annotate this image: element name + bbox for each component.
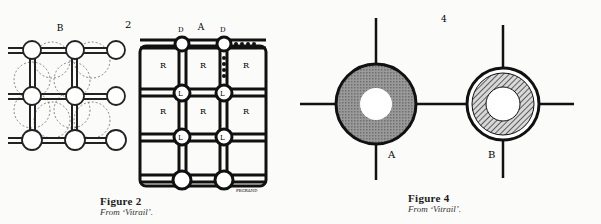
figure2-caption-title: Figure 2 — [100, 195, 153, 207]
cell-label: R — [160, 61, 167, 70]
node-label: L — [220, 134, 225, 142]
figure2-panel-b — [8, 41, 126, 150]
cell-label: R — [243, 61, 250, 70]
node-label: L — [178, 90, 183, 98]
figure2-caption: Figure 2 From ‘Vitrail’. — [100, 195, 153, 217]
lead-label-d1: D — [178, 26, 184, 34]
figure4-number: 4 — [441, 14, 447, 24]
figures-canvas: B 2 A D D R R R R R R L L L L PEGRAND 4 — [0, 0, 601, 224]
cell-label: R — [200, 107, 207, 116]
node-a-label: A — [387, 149, 396, 160]
figure4-caption: Figure 4 From ‘Vitrail’. — [408, 192, 461, 214]
figure2-caption-source: From ‘Vitrail’. — [100, 207, 153, 217]
cell-label: R — [243, 107, 250, 116]
figure4-diagram — [300, 18, 574, 180]
node-label: L — [178, 134, 183, 142]
node-label: L — [220, 90, 225, 98]
figure2-number: 2 — [125, 19, 131, 30]
panel-b-label: B — [57, 23, 64, 33]
node-b-label: B — [488, 149, 495, 160]
lead-label-d2: D — [220, 26, 226, 34]
cell-label: R — [200, 61, 207, 70]
figure4-caption-title: Figure 4 — [408, 192, 461, 204]
cell-label: R — [160, 107, 167, 116]
engraver-signature: PEGRAND — [236, 188, 257, 193]
figure4-caption-source: From ‘Vitrail’. — [408, 204, 461, 214]
panel-a-label: A — [197, 22, 205, 32]
